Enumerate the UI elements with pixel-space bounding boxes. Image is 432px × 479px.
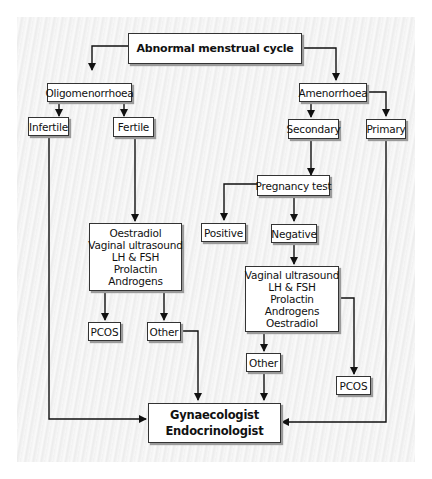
node-tests-amenorrhoea: Vaginal ultrasound LH & FSH Prolactin An… [245,266,339,332]
test-item: Oestradiol [110,227,162,239]
node-label: PCOS [340,380,368,392]
node-label: Fertile [118,121,149,133]
node-label: Other [249,357,278,369]
test-item: Prolactin [114,263,158,275]
node-label: Endocrinologist [165,423,263,439]
node-label: Pregnancy test [256,180,332,192]
test-item: Vaginal ultrasound [245,269,339,281]
node-gynaecologist-endocrinologist: Gynaecologist Endocrinologist [148,403,281,443]
test-item: Androgens [265,305,319,317]
node-negative: Negative [271,224,317,243]
node-abnormal-menstrual-cycle: Abnormal menstrual cycle [128,33,302,64]
node-fertile: Fertile [113,117,154,137]
test-item: Oestradiol [266,317,318,329]
arrow-root-to-amenorrhoea [302,48,336,80]
test-item: LH & FSH [268,281,315,293]
test-item: Androgens [108,275,162,287]
node-oligomenorrhoea: Oligomenorrhoea [47,83,132,102]
node-pcos-right: PCOS [336,376,371,395]
arrow-amen-to-primary [367,92,386,116]
node-other-right: Other [246,353,281,372]
arrow-pregnancy-to-positive [224,184,257,220]
node-infertile: Infertile [28,117,69,136]
node-label: Infertile [29,121,68,133]
test-item: LH & FSH [112,251,159,263]
node-other-left: Other [147,322,181,341]
node-label: Gynaecologist [170,407,259,423]
arrow-other-left-to-specialist [181,331,198,400]
test-item: Vaginal ultrasound [88,239,182,251]
node-label: Negative [271,228,317,240]
node-pregnancy-test: Pregnancy test [257,175,330,196]
node-label: Other [150,326,179,338]
node-label: Oligomenorrhoea [45,87,133,99]
arrow-tests-to-pcos-right [340,298,354,374]
node-secondary: Secondary [288,119,339,139]
node-positive: Positive [201,223,246,242]
node-label: Secondary [287,123,341,135]
node-pcos-left: PCOS [88,322,121,341]
arrow-root-to-oligomenorrhoea [92,46,128,70]
node-label: Primary [366,123,405,135]
node-amenorrhoea: Amenorrhoea [299,83,367,102]
test-item: Prolactin [270,293,314,305]
node-tests-oligomenorrhoea: Oestradiol Vaginal ultrasound LH & FSH P… [89,223,182,291]
node-label: Positive [204,227,243,239]
node-label: Abnormal menstrual cycle [136,43,293,55]
node-primary: Primary [366,119,406,139]
node-label: PCOS [91,326,119,338]
node-label: Amenorrhoea [299,87,368,99]
